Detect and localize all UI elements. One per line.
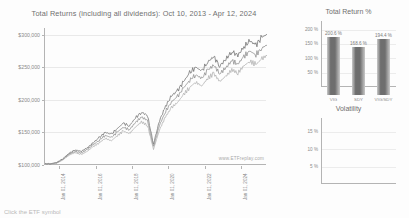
bar-value-label: 194.4 %: [371, 33, 396, 38]
volatility-title: Volatility: [288, 105, 409, 112]
series-line-vig: [45, 34, 267, 164]
y-tick-mark: [42, 132, 44, 133]
mini-y-tick-label: 50 %: [290, 70, 318, 75]
x-tick-mark: [168, 166, 169, 169]
watermark: www.ETFreplay.com: [219, 156, 264, 161]
mini-gridline: [322, 132, 396, 133]
y-tick-label: $100,000: [0, 162, 40, 168]
bar-value-label: 200.6 %: [321, 31, 346, 36]
page-caption: Click the ETF symbol: [4, 209, 61, 218]
volatility-plot-area: [321, 118, 396, 184]
side-panels: Total Return % 200 %150 %100 %50 % 200.6…: [288, 0, 409, 205]
x-tick-mark: [96, 166, 97, 169]
screenshot-root: Total Returns (including all dividends):…: [0, 0, 409, 218]
main-line-chart: Total Returns (including all dividends):…: [0, 0, 288, 205]
x-tick-label: Jan 01, 2020: [170, 173, 175, 200]
x-tick-mark: [132, 166, 133, 169]
bar-category-label: VIG/SDY: [371, 97, 396, 102]
mini-y-tick-label: 10 %: [290, 147, 318, 152]
x-tick-mark: [205, 166, 206, 169]
mini-y-tick-label: 100 %: [290, 56, 318, 61]
x-tick-label: Jan 01, 2018: [134, 173, 139, 200]
total-return-title: Total Return %: [288, 8, 409, 15]
bar-category-label: SDY: [346, 97, 371, 102]
series-line-vig-sdy: [45, 45, 267, 164]
y-tick-mark: [42, 67, 44, 68]
mini-y-tick-label: 5 %: [290, 164, 318, 169]
y-tick-mark: [42, 35, 44, 36]
x-tick-label: Jan 01, 2014: [61, 173, 66, 200]
bar-category-label: VIG: [321, 97, 346, 102]
x-tick-label: Jan 01, 2022: [207, 173, 212, 200]
bar-vig-sdy: [377, 39, 390, 95]
mini-y-tick-label: 200 %: [290, 27, 318, 32]
mini-gridline: [322, 149, 396, 150]
main-series-lines: [45, 28, 267, 165]
bar-sdy: [352, 47, 365, 95]
y-tick-label: $300,000: [0, 32, 40, 38]
y-tick-mark: [42, 100, 44, 101]
series-line-sdy: [45, 55, 267, 164]
main-plot-area: www.ETFreplay.com: [44, 28, 266, 165]
mini-y-tick-label: 150 %: [290, 41, 318, 46]
y-tick-label: $200,000: [0, 97, 40, 103]
x-tick-mark: [59, 166, 60, 169]
bar-value-label: 168.6 %: [346, 41, 371, 46]
total-return-chart: Total Return % 200 %150 %100 %50 % 200.6…: [288, 8, 409, 100]
bar-vig: [327, 37, 340, 95]
x-tick-label: Jan 01, 2016: [98, 173, 103, 200]
volatility-chart: Volatility 15 %10 %5 % 15.6 %VIG16.4 %SD…: [288, 105, 409, 197]
y-tick-label: $250,000: [0, 64, 40, 70]
mini-y-tick-label: 15 %: [290, 129, 318, 134]
x-tick-mark: [241, 166, 242, 169]
mini-gridline: [322, 167, 396, 168]
main-chart-title: Total Returns (including all dividends):…: [0, 9, 288, 18]
x-tick-label: Jan 01, 2024: [243, 173, 248, 200]
y-tick-mark: [42, 165, 44, 166]
y-tick-label: $150,000: [0, 129, 40, 135]
